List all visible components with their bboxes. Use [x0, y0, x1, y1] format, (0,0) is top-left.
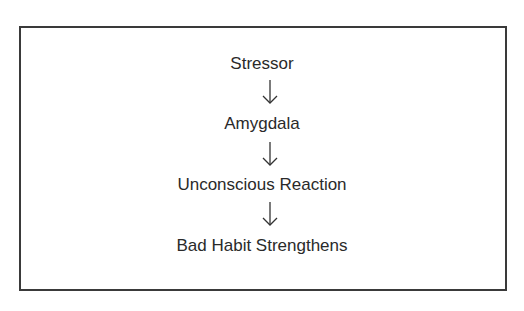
down-arrow-icon [260, 79, 280, 105]
step-stressor: Stressor [0, 54, 524, 74]
step-unconscious-reaction: Unconscious Reaction [0, 175, 524, 195]
step-amygdala: Amygdala [0, 114, 524, 134]
down-arrow-icon [260, 141, 280, 167]
step-bad-habit-strengthens: Bad Habit Strengthens [0, 236, 524, 256]
down-arrow-icon [260, 201, 280, 227]
